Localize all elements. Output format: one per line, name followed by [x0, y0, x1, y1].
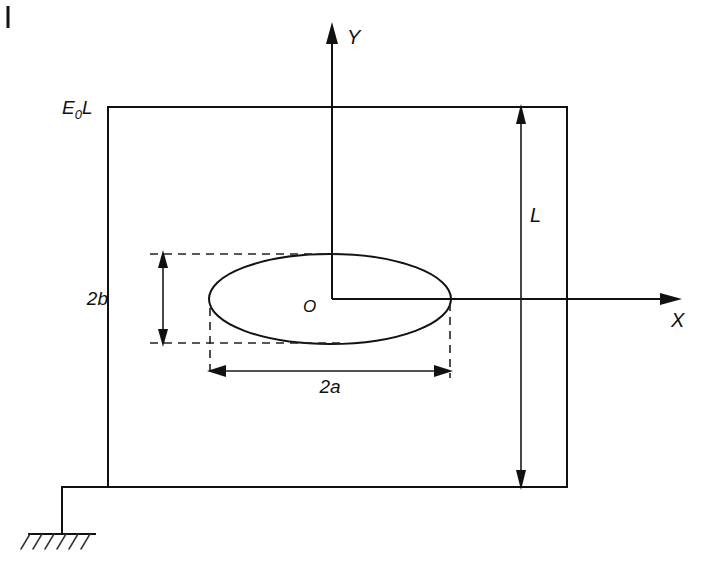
dimension-2b-arrowhead-bottom-icon [158, 329, 168, 347]
mechanics-diagram: E0L Y X O L 2b 2a [0, 0, 701, 576]
dimension-2b-arrowhead-top-icon [158, 250, 168, 268]
dimension-2b-label: 2b [86, 288, 108, 309]
y-axis-arrowhead-icon [326, 22, 338, 44]
dimension-L-label: L [530, 204, 541, 226]
applied-strain-label: E0L [62, 97, 93, 122]
origin-label: O [303, 297, 316, 316]
x-axis-arrowhead-icon [660, 293, 682, 305]
plate-rectangle [108, 107, 567, 487]
x-axis-label: X [670, 309, 685, 331]
support-stem [62, 487, 108, 534]
y-axis-label: Y [347, 26, 362, 48]
figure-canvas: E0L Y X O L 2b 2a [0, 0, 701, 576]
dimension-2a-label: 2a [318, 376, 340, 397]
ground-hatching-icon [21, 534, 90, 549]
